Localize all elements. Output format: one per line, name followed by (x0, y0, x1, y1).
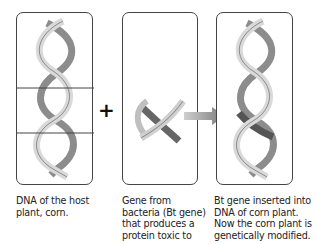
plus-sign: + (98, 98, 115, 122)
bt-gene-panel (122, 12, 198, 185)
gene-fragment-icon (123, 13, 199, 186)
bt-gene-caption: Gene from bacteria (Bt gene) that produc… (122, 195, 206, 241)
host-dna-panel (16, 12, 93, 185)
dna-double-helix-icon (17, 13, 94, 186)
modified-dna-helix-icon (217, 13, 294, 186)
host-dna-caption: DNA of the host plant, corn. (16, 195, 89, 218)
modified-dna-panel (216, 12, 293, 185)
modified-dna-caption: Bt gene inserted into DNA of corn plant.… (214, 195, 312, 241)
